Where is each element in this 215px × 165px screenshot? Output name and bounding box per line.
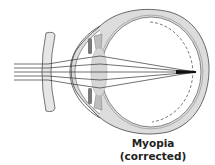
diagram-subtitle: (corrected) — [112, 150, 194, 163]
iris-top — [88, 38, 92, 54]
diagram-title: Myopia — [112, 137, 194, 150]
iris-bottom — [88, 88, 92, 104]
